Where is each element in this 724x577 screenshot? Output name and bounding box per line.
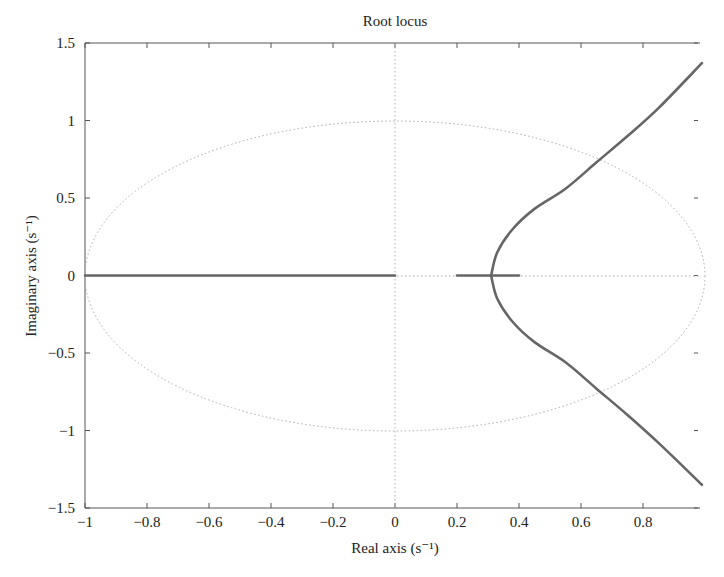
x-tick-label: 0 <box>391 514 399 530</box>
y-tick-label: −0.5 <box>48 345 75 361</box>
x-tick-label: 0.2 <box>448 514 467 530</box>
x-tick-label: 0.6 <box>572 514 591 530</box>
chart-title: Root locus <box>363 13 428 29</box>
locus-series <box>85 63 702 485</box>
y-tick-label: 0.5 <box>56 190 75 206</box>
x-tick-label: −0.2 <box>319 514 346 530</box>
y-axis-label: Imaginary axis (s⁻¹) <box>23 215 40 337</box>
x-tick-label: −0.8 <box>133 514 160 530</box>
y-tick-label: −1 <box>59 423 75 439</box>
x-tick-label: −0.6 <box>195 514 223 530</box>
x-tick-labels: −1−0.8−0.6−0.4−0.200.20.40.60.8 <box>77 514 652 530</box>
root-locus-chart: Root locus −1−0.8−0.6−0.4−0.200.20.40.60… <box>0 0 724 577</box>
upper-branch <box>491 63 702 275</box>
y-tick-label: 1 <box>68 113 76 129</box>
lower-branch <box>491 276 702 485</box>
x-axis-label: Real axis (s⁻¹) <box>351 540 438 557</box>
y-tick-labels: 1.510.50−0.5−1−1.5 <box>48 35 75 516</box>
y-tick-label: −1.5 <box>48 500 75 516</box>
x-tick-label: −0.4 <box>257 514 285 530</box>
y-tick-label: 0 <box>68 268 76 284</box>
y-tick-label: 1.5 <box>56 35 75 51</box>
x-tick-label: 0.4 <box>510 514 529 530</box>
x-tick-label: 0.8 <box>634 514 653 530</box>
x-tick-label: −1 <box>77 514 93 530</box>
